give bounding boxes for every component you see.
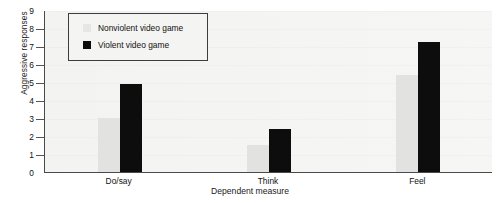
y-axis-tick-label: 6 [20, 61, 34, 69]
y-axis-tick-label: 0 [20, 169, 34, 177]
y-axis-tick [36, 47, 44, 48]
legend-item-nonviolent: Nonviolent video game [83, 22, 207, 34]
y-axis-tick-label: 8 [20, 25, 34, 33]
bar-do-say-violent [120, 84, 142, 172]
legend-swatch-nonviolent-icon [83, 24, 91, 32]
x-axis-label-feel: Feel [377, 176, 457, 186]
y-axis-tick-label: 4 [20, 97, 34, 105]
y-axis-tick [36, 101, 44, 102]
y-axis-tick [36, 155, 44, 156]
y-axis-tick-label: 9 [20, 7, 34, 15]
legend-swatch-violent-icon [83, 41, 91, 49]
y-axis-tick [36, 119, 44, 120]
legend-label-violent: Violent video game [98, 40, 169, 50]
bar-think-violent [269, 129, 291, 172]
y-axis-tick [36, 65, 44, 66]
y-axis-tick-label: 7 [20, 43, 34, 51]
x-axis-label-do-say: Do/say [79, 176, 159, 186]
y-axis-tick [36, 83, 44, 84]
bar-chart-figure: Aggressive responses 9876543210 Do/sayTh… [0, 0, 500, 203]
y-axis-tick-label: 5 [20, 79, 34, 87]
y-axis-tick-label: 3 [20, 115, 34, 123]
legend-label-nonviolent: Nonviolent video game [98, 23, 183, 33]
y-axis-tick [36, 29, 44, 30]
bar-feel-nonviolent [396, 75, 418, 172]
bar-think-nonviolent [247, 145, 269, 172]
y-axis-tick-label: 2 [20, 133, 34, 141]
legend-item-violent: Violent video game [83, 39, 207, 51]
x-axis-title: Dependent measure [0, 186, 500, 196]
y-axis-tick-label: 1 [20, 151, 34, 159]
x-axis-label-think: Think [228, 176, 308, 186]
bar-do-say-nonviolent [98, 118, 120, 172]
y-axis-tick [36, 137, 44, 138]
chart-legend: Nonviolent video game Violent video game [68, 13, 208, 61]
bar-feel-violent [418, 42, 440, 172]
